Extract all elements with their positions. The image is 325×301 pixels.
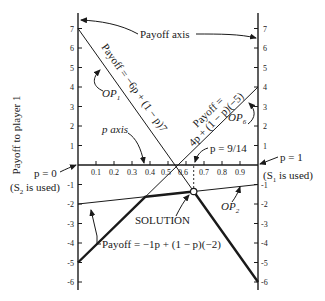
svg-text:-4: -4 bbox=[261, 239, 268, 248]
game-theory-diagram: Payoff to player 1 7 6 5 4 3 2 1 -1 -2 -… bbox=[0, 0, 325, 301]
svg-text:-3: -3 bbox=[261, 220, 268, 229]
p-one-label: p = 1 bbox=[280, 151, 303, 163]
solution-p-arrow bbox=[195, 148, 208, 162]
p-axis-arrow bbox=[128, 133, 144, 163]
s1-used-label: (S1 is used) bbox=[263, 169, 313, 184]
svg-text:-4: -4 bbox=[67, 239, 74, 248]
svg-text:0.4: 0.4 bbox=[145, 168, 155, 177]
op6-label: OP6 bbox=[228, 111, 247, 126]
svg-text:0.2: 0.2 bbox=[109, 168, 119, 177]
svg-text:0.9: 0.9 bbox=[235, 168, 245, 177]
svg-text:0.7: 0.7 bbox=[199, 168, 209, 177]
op2-formula-arrow bbox=[91, 210, 101, 244]
svg-text:-3: -3 bbox=[67, 220, 74, 229]
svg-text:-2: -2 bbox=[67, 200, 74, 209]
svg-text:-1: -1 bbox=[261, 181, 268, 190]
svg-text:7: 7 bbox=[70, 25, 74, 34]
p-one-arrow bbox=[260, 157, 278, 164]
svg-text:-6: -6 bbox=[67, 278, 74, 287]
svg-text:4: 4 bbox=[70, 83, 74, 92]
op1-label: OP1 bbox=[102, 87, 120, 102]
svg-text:0.8: 0.8 bbox=[217, 168, 227, 177]
svg-text:1: 1 bbox=[263, 142, 267, 151]
op6-arrow bbox=[248, 103, 254, 124]
s2-used-label: (S2 is used) bbox=[10, 181, 60, 196]
svg-text:5: 5 bbox=[263, 64, 267, 73]
svg-text:4: 4 bbox=[263, 83, 267, 92]
svg-text:6: 6 bbox=[263, 44, 267, 53]
svg-text:-2: -2 bbox=[261, 200, 268, 209]
right-axis-tick-labels: 7 6 5 4 3 2 1 -1 -2 -3 -4 -5 -6 bbox=[261, 25, 268, 288]
payoff-axis-arrow-right bbox=[196, 34, 256, 38]
svg-text:2: 2 bbox=[70, 122, 74, 131]
svg-text:3: 3 bbox=[263, 103, 267, 112]
svg-text:-6: -6 bbox=[261, 278, 268, 287]
p-axis-tick-labels: 0.1 0.2 0.3 0.4 0.5 0.6 0.7 0.8 0.9 bbox=[91, 168, 245, 177]
op2-formula: Payoff = −1p + (1 − p)(−2) bbox=[102, 238, 221, 251]
svg-text:-1: -1 bbox=[67, 181, 74, 190]
svg-text:-5: -5 bbox=[67, 259, 74, 268]
solution-p-label: p = 9/14 bbox=[210, 142, 247, 154]
svg-text:0.3: 0.3 bbox=[127, 168, 137, 177]
p-axis-label: p axis bbox=[101, 123, 128, 135]
p-zero-arrow bbox=[60, 165, 76, 172]
solution-label: SOLUTION bbox=[135, 214, 190, 226]
svg-text:0.1: 0.1 bbox=[91, 168, 101, 177]
svg-text:-5: -5 bbox=[261, 259, 268, 268]
svg-text:2: 2 bbox=[263, 122, 267, 131]
solution-point bbox=[191, 188, 197, 194]
op2-label: OP2 bbox=[221, 200, 240, 215]
svg-text:5: 5 bbox=[70, 64, 74, 73]
y-axis-label: Payoff to player 1 bbox=[10, 96, 22, 175]
svg-text:7: 7 bbox=[263, 25, 267, 34]
svg-text:3: 3 bbox=[70, 103, 74, 112]
solution-arrow bbox=[176, 195, 189, 216]
left-axis-tick-labels: 7 6 5 4 3 2 1 -1 -2 -3 -4 -5 -6 bbox=[67, 25, 74, 288]
p-zero-label: p = 0 bbox=[34, 167, 57, 179]
svg-text:0.5: 0.5 bbox=[161, 168, 171, 177]
op2-arrow bbox=[232, 187, 240, 202]
svg-text:6: 6 bbox=[70, 44, 74, 53]
payoff-axis-label: Payoff axis bbox=[140, 28, 190, 40]
svg-text:1: 1 bbox=[70, 142, 74, 151]
payoff-axis-arrow-left bbox=[81, 20, 138, 34]
